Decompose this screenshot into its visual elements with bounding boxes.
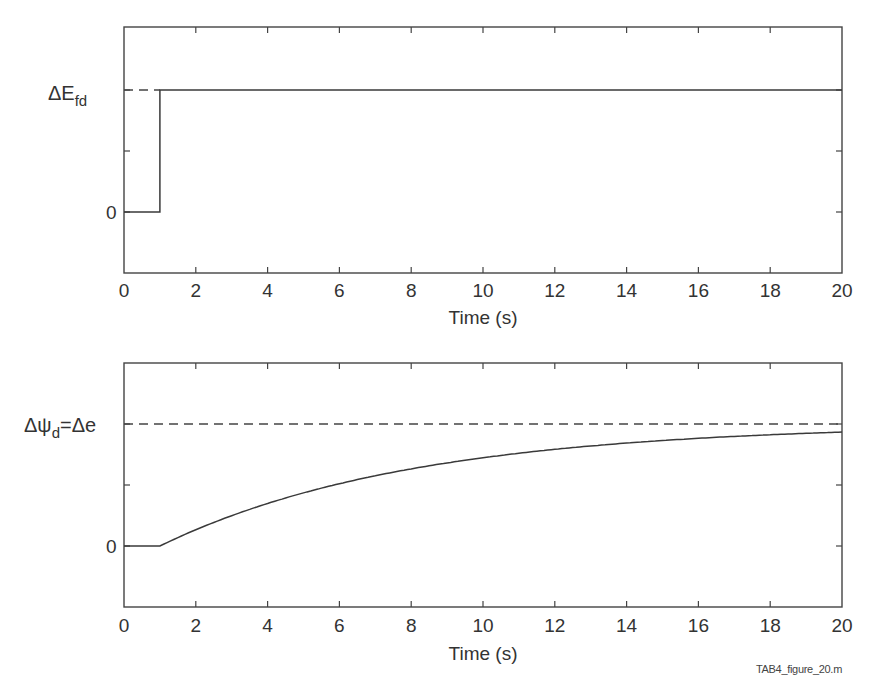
x-tick-label: 4 [262,280,273,301]
x-tick-label: 14 [616,280,638,301]
top-x-axis-title: Time (s) [449,307,518,328]
x-tick-label: 2 [191,280,202,301]
x-tick-label: 6 [334,280,345,301]
x-tick-label: 14 [616,615,638,636]
x-tick-label: 18 [760,615,781,636]
top-x-tick-labels: 02468101214161820 [119,280,853,301]
x-tick-label: 2 [191,615,202,636]
x-tick-label: 20 [831,615,852,636]
top-step-line [124,90,842,212]
bottom-y-zero-label: 0 [106,536,117,557]
x-tick-label: 18 [760,280,781,301]
x-tick-label: 16 [688,615,709,636]
x-tick-label: 0 [119,615,130,636]
x-tick-label: 10 [472,280,493,301]
bottom-x-tick-labels: 02468101214161820 [119,615,853,636]
x-tick-label: 0 [119,280,130,301]
top-x-ticks [196,27,770,273]
bottom-y-ticks [124,424,842,546]
bottom-y-label: Δψd=Δe [24,414,96,441]
top-plot-frame [124,27,842,273]
bottom-plot-frame [124,363,842,607]
top-plot: 02468101214161820 Time (s) ΔEfd 0 [48,27,853,328]
top-y-zero-label: 0 [106,202,117,223]
x-tick-label: 12 [544,280,565,301]
x-tick-label: 20 [831,280,852,301]
x-tick-label: 4 [262,615,273,636]
x-tick-label: 10 [472,615,493,636]
figure-canvas: 02468101214161820 Time (s) ΔEfd 0 024681… [0,0,888,691]
x-tick-label: 8 [406,615,417,636]
x-tick-label: 16 [688,280,709,301]
x-tick-label: 12 [544,615,565,636]
top-y-ticks [124,90,842,212]
bottom-response-curve [124,432,842,546]
bottom-x-ticks [196,363,770,607]
x-tick-label: 6 [334,615,345,636]
x-tick-label: 8 [406,280,417,301]
bottom-x-axis-title: Time (s) [449,643,518,664]
figure-filename: TAB4_figure_20.m [756,663,842,675]
top-y-label: ΔEfd [48,82,87,109]
bottom-plot: 02468101214161820 Time (s) Δψd=Δe 0 [24,363,853,664]
